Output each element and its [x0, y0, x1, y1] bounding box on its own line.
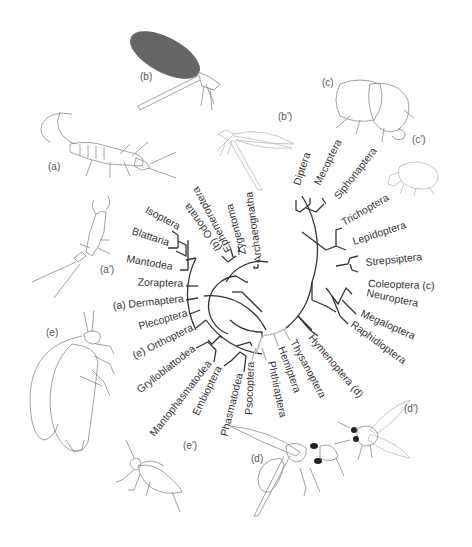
taxon-psocoptera: Psocoptera	[242, 362, 256, 416]
illustration-a-prime-earwig	[32, 196, 110, 298]
taxon-dermaptera: (a) Dermaptera	[112, 292, 184, 311]
taxon-mecoptera: Mecoptera	[311, 137, 344, 187]
taxon-strepsiptera: Strepsiptera	[365, 250, 423, 268]
illustration-c-beetle	[336, 80, 414, 142]
illustration-label-b: (b)	[140, 71, 152, 82]
taxon-siphonaptera: Siphonaptera	[331, 144, 379, 201]
illustration-b-damselfly	[123, 22, 220, 110]
illustration-b-prime-damselfly	[218, 130, 294, 190]
phylogeny-figure: (b) (a) (a') (e) (e')	[0, 0, 472, 547]
taxon-trichoptera: Trichoptera	[339, 191, 391, 228]
illustration-a-earwig	[41, 112, 176, 178]
taxon-lepidoptera: Lepidoptera	[351, 218, 408, 247]
taxon-coleoptera: Coleoptera (c)	[368, 277, 435, 291]
taxon-diptera: Diptera	[290, 151, 312, 187]
taxon-isoptera: Isoptera	[144, 203, 183, 231]
illustration-label-b-prime: (b')	[278, 111, 292, 122]
illustration-label-c-prime: (c')	[412, 134, 426, 145]
illustration-label-d-prime: (d')	[404, 403, 418, 414]
illustration-label-d: (d)	[251, 453, 263, 464]
illustration-c-prime-beetle	[388, 162, 438, 196]
illustration-label-e: (e)	[46, 327, 58, 338]
illustration-label-c: (c)	[322, 77, 334, 88]
taxon-mantodea: Mantodea	[126, 252, 174, 272]
taxon-zoraptera: Zoraptera	[137, 275, 183, 289]
illustration-e-orthopteran	[30, 310, 114, 452]
illustration-label-a: (a)	[48, 161, 60, 172]
illustration-e-prime-nymph	[116, 440, 182, 512]
taxon-labels: Archaeognatha Zygentoma Ephemeroptera (b…	[112, 137, 435, 438]
illustration-d-wasp	[230, 426, 350, 516]
illustration-label-a-prime: (a')	[100, 264, 114, 275]
illustration-d-prime-fly	[338, 400, 410, 460]
taxon-blattaria: Blattaria	[131, 225, 171, 248]
illustration-label-e-prime: (e')	[183, 440, 197, 451]
